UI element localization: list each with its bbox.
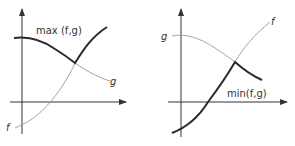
diagram-canvas: max (f,g) g f g f min(f,g) — [0, 0, 295, 146]
diagram-max-min: max (f,g) g f g f min(f,g) — [0, 0, 295, 146]
right-panel: g f min(f,g) — [161, 9, 287, 137]
right-g-label: g — [161, 31, 167, 42]
right-f-label: f — [271, 16, 276, 27]
left-max-label: max (f,g) — [36, 25, 82, 36]
left-panel: max (f,g) g f — [6, 9, 126, 134]
left-curve-f-thin — [15, 63, 75, 128]
right-min-label: min(f,g) — [227, 88, 267, 99]
left-f-label: f — [6, 122, 11, 133]
left-curve-g-thin — [75, 63, 110, 81]
right-curve-f-thin — [235, 22, 270, 62]
left-g-label: g — [110, 76, 116, 87]
